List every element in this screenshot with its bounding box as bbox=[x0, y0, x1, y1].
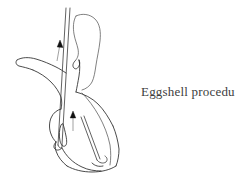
lower-fan-right-edge bbox=[113, 126, 119, 166]
probe-tip-hook bbox=[97, 156, 107, 163]
probe-upper-line bbox=[81, 117, 97, 160]
lobe-notch bbox=[73, 60, 80, 69]
cannula-right-line bbox=[62, 8, 70, 145]
fan-bottom-lip bbox=[62, 148, 101, 171]
upper-direction-arrow bbox=[57, 40, 63, 61]
probe-tip-detail bbox=[92, 163, 103, 166]
upper-lobe-left-edge bbox=[73, 16, 78, 61]
figure-caption: Eggshell procedure bbox=[141, 84, 235, 99]
upper-lobe-outline bbox=[76, 14, 100, 90]
lower-fan-bottom-edge bbox=[67, 166, 116, 172]
figure-container: Eggshell procedure bbox=[0, 0, 235, 184]
left-horn-tip bbox=[16, 60, 33, 70]
left-horn-upper-edge bbox=[17, 58, 66, 73]
cannula-tip bbox=[58, 145, 62, 148]
left-horn-lower-edge bbox=[33, 70, 62, 109]
probe-lower-line bbox=[84, 116, 100, 159]
lower-direction-arrow bbox=[70, 111, 76, 131]
lower-fan-inner-contour bbox=[82, 93, 111, 165]
